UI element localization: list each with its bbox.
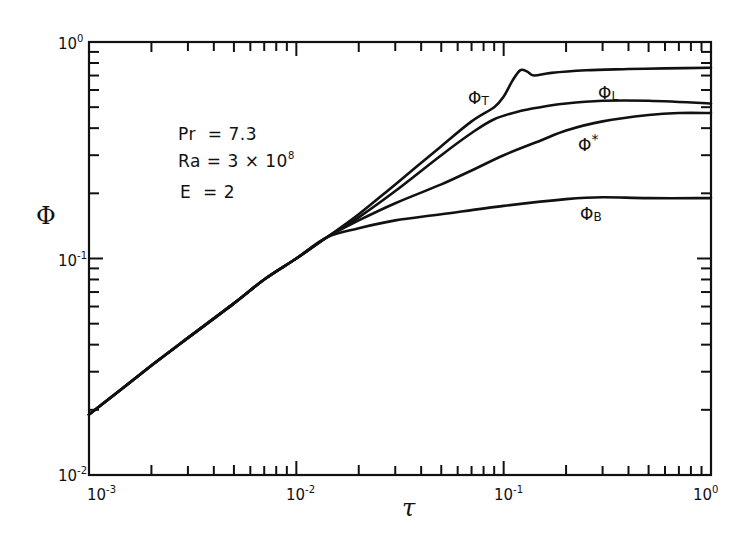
plot-area [0, 0, 754, 542]
plot-frame [89, 42, 711, 475]
param-e: E = 2 [180, 182, 235, 202]
axis-ticks [89, 42, 711, 475]
x-axis-title: τ [402, 494, 415, 522]
x-tick-label-1e-3: 10-3 [87, 484, 116, 504]
y-tick-label-1e0: 100 [58, 33, 83, 53]
y-tick-label-1e-1: 10-1 [58, 250, 87, 270]
param-ra: Ra = 3 × 108 [178, 150, 295, 171]
series-line-b [89, 197, 711, 414]
x-tick-label-1e-2: 10-2 [286, 484, 315, 504]
y-tick-label-1e-2: 10-2 [58, 465, 87, 485]
curves [89, 68, 711, 415]
y-axis-title: Φ [36, 202, 56, 230]
param-pr: Pr = 7.3 [178, 124, 257, 144]
series-line-l [89, 101, 711, 415]
series-label-phi-b: ΦB [580, 204, 602, 224]
series-label-phi-l: ΦL [598, 83, 618, 103]
series-label-phi-t: ΦT [468, 88, 489, 108]
x-tick-label-1e0: 100 [693, 484, 718, 504]
x-tick-label-1e-1: 10-1 [494, 484, 523, 504]
series-label-phi-star: Φ* [578, 131, 598, 155]
